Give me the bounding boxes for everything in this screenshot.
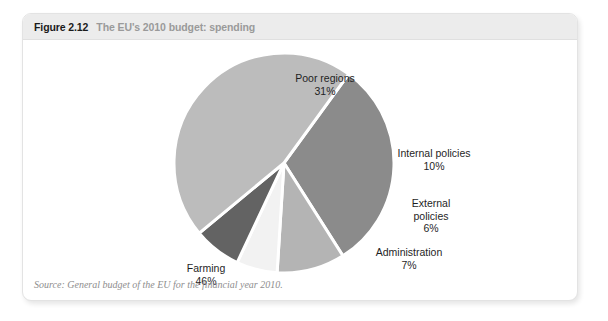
pie-label-administration-name: Administration bbox=[376, 246, 443, 258]
pie-label-farming-name: Farming bbox=[187, 262, 226, 274]
pie-label-internal-policies: Internal policies 10% bbox=[378, 147, 490, 172]
figure-header: Figure 2.12 The EU's 2010 budget: spendi… bbox=[23, 14, 577, 40]
pie-label-poor-regions-name: Poor regions bbox=[295, 72, 355, 84]
pie-label-external-policies: External policies 6% bbox=[395, 197, 467, 235]
pie-label-administration: Administration 7% bbox=[354, 246, 464, 271]
pie-label-internal-policies-pct: 10% bbox=[378, 160, 490, 173]
pie-label-poor-regions: Poor regions 31% bbox=[265, 72, 385, 97]
pie-label-poor-regions-pct: 31% bbox=[265, 85, 385, 98]
figure-source: Source: General budget of the EU for the… bbox=[34, 279, 283, 290]
pie-label-external-policies-name: External bbox=[412, 197, 451, 209]
pie-label-external-policies-name2: policies bbox=[395, 210, 467, 223]
pie-chart: Poor regions 31% Internal policies 10% E… bbox=[23, 40, 577, 278]
pie-label-external-policies-pct: 6% bbox=[395, 222, 467, 235]
pie-label-administration-pct: 7% bbox=[354, 259, 464, 272]
figure-title: The EU's 2010 budget: spending bbox=[96, 21, 255, 33]
figure-number: Figure 2.12 bbox=[34, 21, 88, 33]
pie-label-internal-policies-name: Internal policies bbox=[398, 147, 471, 159]
figure-card: Figure 2.12 The EU's 2010 budget: spendi… bbox=[22, 13, 578, 301]
